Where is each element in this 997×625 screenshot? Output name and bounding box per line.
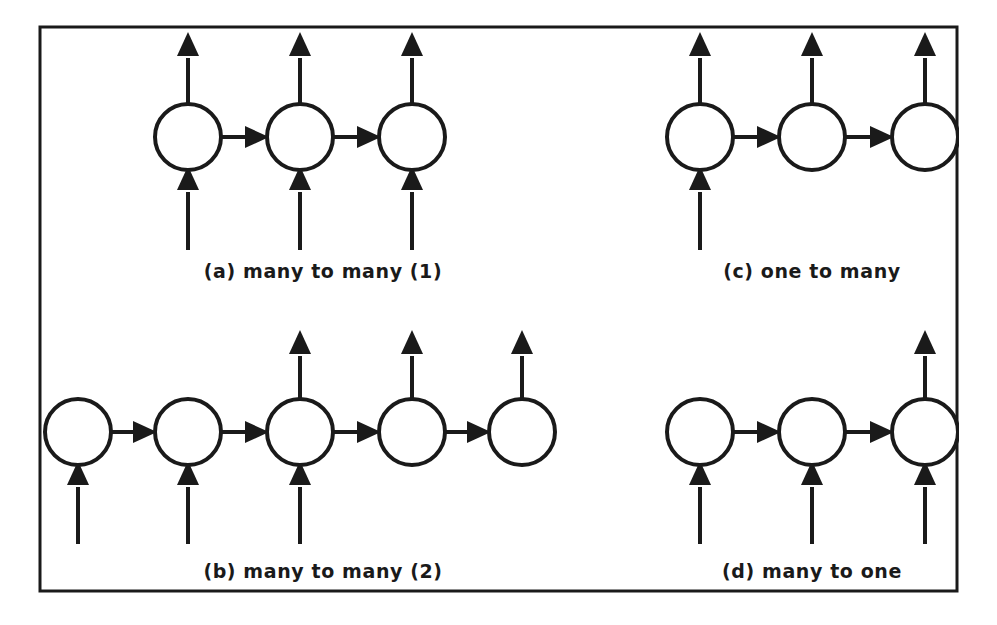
panel-b-label: (b) many to many (2) xyxy=(203,560,442,582)
panel-d-node-2 xyxy=(779,399,845,465)
panel-b-node-2 xyxy=(155,399,221,465)
panel-b-node-3 xyxy=(267,399,333,465)
panel-a-node-3 xyxy=(379,104,445,170)
panel-c-node-3 xyxy=(892,104,958,170)
panel-c-node-1 xyxy=(667,104,733,170)
panel-a-node-2 xyxy=(267,104,333,170)
panel-d-node-3 xyxy=(892,399,958,465)
panel-a-node-1 xyxy=(155,104,221,170)
panel-d-node-1 xyxy=(667,399,733,465)
figure-background xyxy=(0,0,997,625)
panel-b-node-4 xyxy=(379,399,445,465)
panel-a-label: (a) many to many (1) xyxy=(204,260,442,282)
panel-d-label: (d) many to one xyxy=(722,560,902,582)
panel-c-label: (c) one to many xyxy=(723,260,901,282)
figure-container: (a) many to many (1)(b) many to many (2)… xyxy=(0,0,997,625)
panel-b-node-1 xyxy=(45,399,111,465)
rnn-architecture-diagram: (a) many to many (1)(b) many to many (2)… xyxy=(0,0,997,625)
panel-c-node-2 xyxy=(779,104,845,170)
panel-b-node-5 xyxy=(489,399,555,465)
